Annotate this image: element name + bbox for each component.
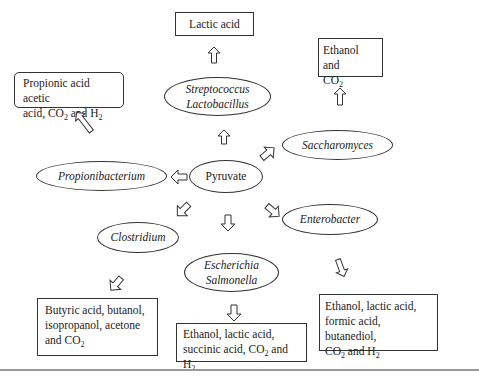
arrow-pyruvate-to-escherichia-icon <box>221 215 235 231</box>
product-butyric-acid: Butyric acid, butanol, isopropanol, acet… <box>37 298 158 356</box>
center-pyruvate: Pyruvate <box>189 160 263 193</box>
organism-saccharomyces: Saccharomyces <box>282 130 393 160</box>
product-line: Propionic acid acetic <box>23 76 115 106</box>
arrow-pyruvate-to-sacch-icon <box>257 142 278 163</box>
product-line: Ethanol and <box>323 43 378 73</box>
product-line: Butyric acid, butanol, <box>45 303 150 318</box>
product-escherichia: Ethanol, lactic acid, succinic acid, CO2… <box>176 323 307 362</box>
organism-streptococcus: Streptococcus Lactobacillus <box>164 77 271 116</box>
organism-propionibacterium: Propionibacterium <box>36 161 167 191</box>
arrow-clostridium-to-product-icon <box>105 273 126 294</box>
arrow-pyruvate-to-propioni-icon <box>171 170 187 184</box>
arrow-pyruvate-to-clostridium-icon <box>172 199 193 220</box>
product-label: Lactic acid <box>189 18 240 30</box>
product-ethanol-co2: Ethanol and CO2 <box>318 38 383 77</box>
product-line: formic acid, butanediol, <box>325 314 432 344</box>
organism-escherichia: Escherichia Salmonella <box>184 253 279 292</box>
product-line: succinic acid, CO2 and H2 <box>183 342 300 372</box>
product-line: Ethanol, lactic acid, <box>325 299 432 314</box>
arrow-pyruvate-to-strep-icon <box>218 130 230 144</box>
arrow-escherichia-to-product-icon <box>227 305 241 321</box>
product-lactic-acid: Lactic acid <box>175 12 254 36</box>
product-line: Ethanol, lactic acid, <box>183 327 300 342</box>
product-line: isopropanol, acetone <box>45 318 150 333</box>
arrow-pyruvate-to-enterobacter-icon <box>262 200 283 221</box>
organism-clostridium: Clostridium <box>97 222 179 253</box>
product-line: CO2 and H2 <box>325 344 432 359</box>
product-enterobacter: Ethanol, lactic acid, formic acid, butan… <box>319 294 438 351</box>
arrow-sacch-to-ethanol-icon <box>334 88 346 105</box>
arrow-strep-to-lactic-icon <box>208 47 220 63</box>
product-propionic-acid: Propionic acid acetic acid, CO2 and H2 <box>14 72 124 108</box>
organism-enterobacter: Enterobacter <box>282 204 378 235</box>
product-line: acid, CO2 and H2 <box>23 106 115 121</box>
bottom-divider <box>0 369 479 371</box>
product-line: CO2 <box>323 73 378 88</box>
arrow-enterobacter-to-product-icon <box>332 257 349 278</box>
product-line: and CO2 <box>45 333 150 348</box>
